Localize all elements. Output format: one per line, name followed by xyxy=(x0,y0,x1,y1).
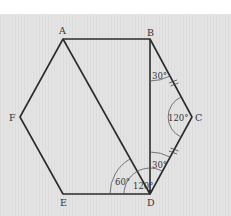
vertex-label-F: F xyxy=(9,112,16,123)
vertex-label-C: C xyxy=(195,112,202,123)
vertex-label-E: E xyxy=(60,197,67,208)
angle-label-C: 120° xyxy=(168,113,188,123)
angle-label-D-30: 30° xyxy=(152,160,167,170)
vertex-label-A: A xyxy=(58,25,66,36)
angle-label-B: 30° xyxy=(152,71,167,81)
angle-arc-D-30 xyxy=(150,152,170,157)
diagram-stage: A B C D E F 30° 120° 30° 60° 120° xyxy=(0,0,231,216)
vertex-label-B: B xyxy=(147,27,154,38)
angle-label-D-120: 120° xyxy=(133,181,153,191)
diagonal-AD xyxy=(63,39,150,194)
hexagon-figure: A B C D E F 30° 120° 30° 60° 120° xyxy=(0,0,231,216)
vertex-label-D: D xyxy=(147,197,155,208)
angle-label-D-60: 60° xyxy=(115,177,130,187)
